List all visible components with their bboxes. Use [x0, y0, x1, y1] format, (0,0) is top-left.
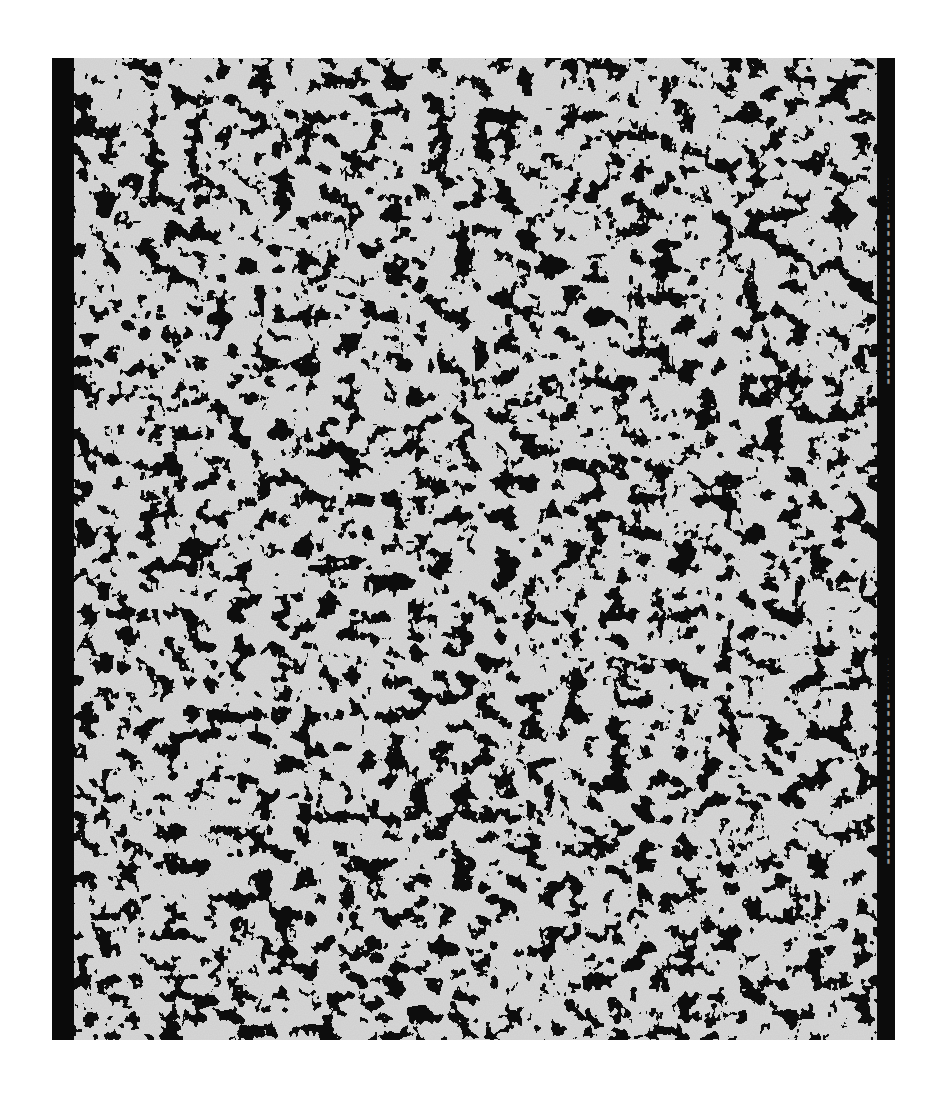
- selvage-print-text: · · · · · · ▮▮▮ ▮▮ ▮▮▮▮ ▮▮▮▮▮ ▮▮▮▮▮▮: [880, 178, 892, 385]
- right-selvage: · · · · · · ▮▮▮ ▮▮ ▮▮▮▮ ▮▮▮▮▮ ▮▮▮▮▮▮ · ·…: [877, 58, 895, 1040]
- brushstroke-pattern: [52, 58, 895, 1040]
- left-selvage: [52, 58, 74, 1040]
- textile-artwork: · · · · · · ▮▮▮ ▮▮ ▮▮▮▮ ▮▮▮▮▮ ▮▮▮▮▮▮ · ·…: [52, 58, 895, 1040]
- selvage-print-text: · · · · · · ▮▮▮ ▮▮ ▮▮▮▮ ▮▮▮▮▮ ▮▮▮▮▮▮: [880, 658, 892, 865]
